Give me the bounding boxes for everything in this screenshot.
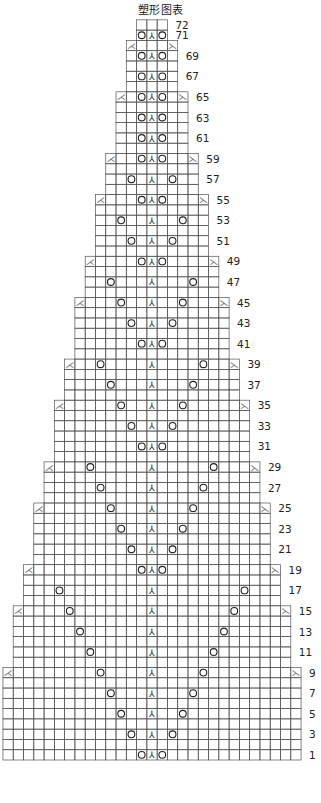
grid-cell <box>178 565 188 575</box>
center-decrease-symbol: ⅄ <box>148 689 155 699</box>
row-number-label: 67 <box>186 70 199 82</box>
grid-cell <box>137 606 147 616</box>
grid-cell <box>126 606 136 616</box>
grid-cell <box>198 585 208 595</box>
yarn-over-symbol <box>159 52 166 59</box>
grid-cell <box>209 503 219 513</box>
grid-cell <box>178 174 188 184</box>
yarn-over-symbol <box>97 669 104 676</box>
grid-cell <box>167 606 177 616</box>
grid-cell <box>54 544 64 554</box>
grid-cell <box>229 616 239 626</box>
grid-cell <box>75 513 85 523</box>
grid-cell <box>239 544 249 554</box>
grid-cell <box>116 143 126 153</box>
grid-cell <box>75 616 85 626</box>
grid-cell <box>209 698 219 708</box>
grid-cell <box>44 698 54 708</box>
grid-cell <box>65 575 75 585</box>
left-decrease-symbol: ⋌ <box>76 298 85 308</box>
grid-cell <box>106 287 116 297</box>
grid-cell <box>13 750 23 760</box>
grid-cell <box>85 493 95 503</box>
grid-cell <box>260 585 270 595</box>
grid-cell <box>126 698 136 708</box>
grid-cell <box>65 462 75 472</box>
grid-cell <box>188 225 198 235</box>
grid-cell <box>106 482 116 492</box>
grid-cell <box>178 349 188 359</box>
right-decrease-symbol: ⋋ <box>240 401 249 411</box>
grid-cell <box>34 657 44 667</box>
grid-cell <box>291 739 301 749</box>
yarn-over-symbol <box>200 361 207 368</box>
yarn-over-symbol <box>159 114 166 121</box>
yarn-over-symbol <box>159 258 166 265</box>
right-decrease-symbol: ⋋ <box>168 41 177 51</box>
grid-cell <box>137 544 147 554</box>
grid-cell <box>188 585 198 595</box>
grid-cell <box>167 739 177 749</box>
grid-cell <box>178 575 188 585</box>
yarn-over-symbol <box>107 690 114 697</box>
grid-cell <box>106 606 116 616</box>
yarn-over-symbol <box>138 73 145 80</box>
grid-cell <box>167 369 177 379</box>
grid-cell <box>75 339 85 349</box>
grid-cell <box>65 750 75 760</box>
grid-cell <box>85 318 95 328</box>
grid-cell <box>147 246 157 256</box>
grid-cell <box>65 472 75 482</box>
grid-cell <box>219 503 229 513</box>
grid-cell <box>147 678 157 688</box>
grid-cell <box>95 452 105 462</box>
grid-cell <box>54 729 64 739</box>
grid-cell <box>95 647 105 657</box>
yarn-over-symbol <box>128 176 135 183</box>
grid-cell <box>239 503 249 513</box>
center-decrease-symbol: ⅄ <box>148 442 155 452</box>
grid-cell <box>54 441 64 451</box>
grid-cell <box>65 390 75 400</box>
grid-cell <box>24 688 34 698</box>
grid-cell <box>54 709 64 719</box>
grid-cell <box>188 534 198 544</box>
grid-cell <box>137 349 147 359</box>
grid-cell <box>116 123 126 133</box>
grid-cell <box>116 698 126 708</box>
grid-cell <box>147 410 157 420</box>
row-number-label: 65 <box>196 91 209 103</box>
grid-cell <box>137 277 147 287</box>
grid-cell <box>126 205 136 215</box>
grid-cell <box>106 698 116 708</box>
grid-cell <box>198 328 208 338</box>
grid-cell <box>75 719 85 729</box>
grid-cell <box>188 626 198 636</box>
grid-cell <box>126 575 136 585</box>
grid-cell <box>137 431 147 441</box>
grid-cell <box>198 267 208 277</box>
grid-cell <box>106 318 116 328</box>
yarn-over-symbol <box>128 731 135 738</box>
right-decrease-symbol: ⋋ <box>250 463 259 473</box>
grid-cell <box>126 143 136 153</box>
grid-cell <box>65 482 75 492</box>
grid-cell <box>250 678 260 688</box>
grid-cell <box>260 524 270 534</box>
grid-cell <box>178 719 188 729</box>
grid-cell <box>126 524 136 534</box>
grid-cell <box>65 369 75 379</box>
row-number-label: 55 <box>217 194 230 206</box>
grid-cell <box>65 524 75 534</box>
grid-cell <box>44 534 54 544</box>
grid-cell <box>137 534 147 544</box>
grid-cell <box>270 575 280 585</box>
grid-cell <box>137 297 147 307</box>
grid-cell <box>250 493 260 503</box>
grid-cell <box>209 739 219 749</box>
grid-cell <box>3 698 13 708</box>
grid-cell <box>178 729 188 739</box>
grid-cell <box>157 267 167 277</box>
grid-cell <box>34 750 44 760</box>
grid-cell <box>270 729 280 739</box>
